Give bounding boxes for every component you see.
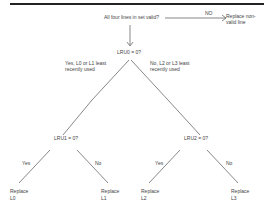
lru1-no-label: No xyxy=(95,160,101,166)
valid-question: All four lines in set valid? xyxy=(104,14,159,20)
replace-l2-line1: Replace xyxy=(141,188,159,194)
tree-lines xyxy=(0,0,264,209)
root-question: LRU0 = 0? xyxy=(117,49,141,55)
lru1-question: LRU1 = 0? xyxy=(54,135,78,141)
no-label: NO xyxy=(205,10,213,16)
lru2-question: LRU2 = 0? xyxy=(184,135,208,141)
lru1-yes-label: Yes xyxy=(22,160,30,166)
root-yes-label: Yes, L0 or L1 least recently used xyxy=(65,60,109,72)
replace-l0-line1: Replace xyxy=(10,188,28,194)
replace-l1-line2: L1 xyxy=(101,195,107,201)
replace-non-valid-text: Replace non-valid line xyxy=(226,13,264,25)
replace-l1-line1: Replace xyxy=(101,188,119,194)
lru2-no-label: No xyxy=(226,160,232,166)
replace-l0-line2: L0 xyxy=(10,195,16,201)
lru2-yes-label: Yes xyxy=(155,160,163,166)
replace-l2-line2: L2 xyxy=(141,195,147,201)
replace-l3-line1: Replace xyxy=(231,188,249,194)
root-no-label: No, L2 or L3 least recently used xyxy=(150,60,194,72)
replace-l3-line2: L3 xyxy=(231,195,237,201)
